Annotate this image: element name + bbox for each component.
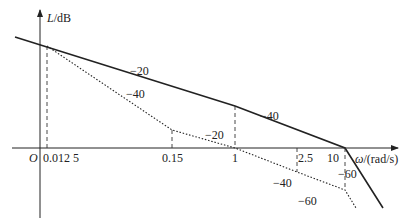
dotted-slope-label-2: −20 [205, 128, 224, 142]
dashed-guides [47, 46, 345, 190]
bode-diagram: L/dB ω/(rad/s) O 0.012 5 0.15 1 2.5 10 −… [0, 0, 412, 218]
tick-label-2.5: 2.5 [298, 151, 313, 165]
dotted-slope-label-1: −40 [126, 87, 145, 101]
tick-label-0.15: 0.15 [162, 151, 183, 165]
origin-label: O [29, 151, 38, 165]
solid-slope-label-3: −60 [338, 167, 357, 181]
dotted-slope-label-4: −60 [298, 194, 317, 208]
solid-slope-label-1: −20 [130, 64, 149, 78]
tick-label-10: 10 [327, 151, 339, 165]
dotted-slope-label-3: −40 [273, 176, 292, 190]
dotted-asymptote-curve [47, 46, 356, 208]
tick-label-1: 1 [232, 151, 238, 165]
solid-asymptote-curve [15, 37, 383, 208]
y-axis-label: L/dB [46, 11, 71, 25]
solid-slope-label-2: −40 [260, 109, 279, 123]
tick-label-0.0125: 0.012 5 [43, 151, 79, 165]
x-axis-label: ω/(rad/s) [355, 152, 398, 166]
